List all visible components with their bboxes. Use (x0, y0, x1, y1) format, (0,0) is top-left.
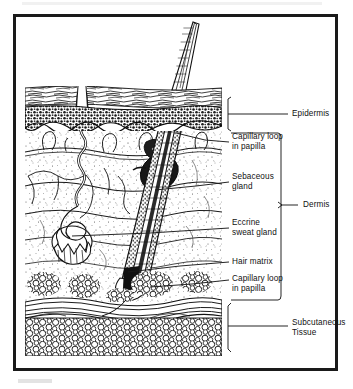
hair-shaft (172, 22, 199, 90)
callout-label-capillary-loop-upper: Capillary loop in papilla (232, 132, 283, 151)
callout-label-sebaceous-gland: Sebaceous gland (232, 172, 274, 191)
basal-cell-layer (25, 106, 222, 134)
subcutaneous-fat-layer (25, 318, 222, 356)
scan-artifact-bottom (18, 379, 52, 383)
callout-label-capillary-loop-lower: Capillary loop in papilla (232, 274, 283, 293)
layer-label-subcutaneous: Subcutaneous Tissue (292, 318, 346, 337)
bracket-subcutaneous (228, 303, 288, 352)
skin-block (25, 86, 222, 356)
callout-label-eccrine-sweat-gland: Eccrine sweat gland (232, 218, 277, 237)
callout-label-hair-matrix: Hair matrix (232, 257, 273, 267)
layer-label-dermis: Dermis (303, 200, 330, 210)
stratum-corneum-layer (25, 86, 222, 108)
layer-label-epidermis: Epidermis (292, 109, 329, 119)
bracket-epidermis (228, 97, 288, 131)
diagram-stage: Epidermis Dermis Subcutaneous Tissue Cap… (0, 0, 353, 389)
figure-root: Epidermis Dermis Subcutaneous Tissue Cap… (0, 0, 353, 389)
